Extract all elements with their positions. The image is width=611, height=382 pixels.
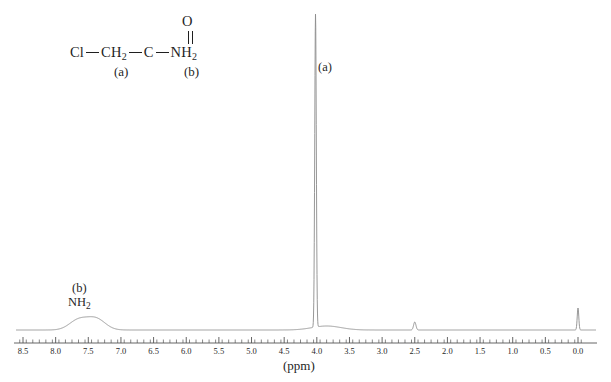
axis-tick-label: 0.5 [540, 346, 551, 356]
axis-tick-label: 5.5 [214, 346, 225, 356]
axis-tick-label: 0.0 [573, 346, 584, 356]
nmr-spectrum: 8.58.07.57.06.56.05.55.04.54.03.53.02.52… [0, 0, 611, 382]
axis-tick-label: 7.0 [116, 346, 127, 356]
axis-tick-label: 8.5 [18, 346, 29, 356]
axis-tick-label: 7.5 [83, 346, 94, 356]
peak-annotation-a: (a) [318, 60, 332, 74]
peak-annotation-b: (b) NH2 [68, 281, 91, 312]
axis-tick-label: 8.0 [50, 346, 61, 356]
spectrum-trace [16, 14, 596, 330]
axis-tick-label: 6.0 [181, 346, 192, 356]
axis-tick-label: 4.5 [279, 346, 290, 356]
axis-tick-label: 4.0 [312, 346, 323, 356]
axis-tick-label: 3.0 [377, 346, 388, 356]
axis-tick-label: 5.0 [246, 346, 257, 356]
axis-tick-label: 1.0 [507, 346, 518, 356]
peak-annotation-b-letter: (b) [68, 281, 91, 295]
peak-annotation-nh2: NH2 [68, 295, 91, 312]
axis-tick-label: 1.5 [475, 346, 486, 356]
axis-tick-label: 2.0 [442, 346, 453, 356]
axis-tick-label: 2.5 [409, 346, 420, 356]
axis-tick-label: 3.5 [344, 346, 355, 356]
axis-tick-label: 6.5 [148, 346, 159, 356]
spectrum-svg: 8.58.07.57.06.56.05.55.04.54.03.53.02.52… [0, 0, 611, 382]
axis-unit-label: (ppm) [283, 359, 315, 374]
